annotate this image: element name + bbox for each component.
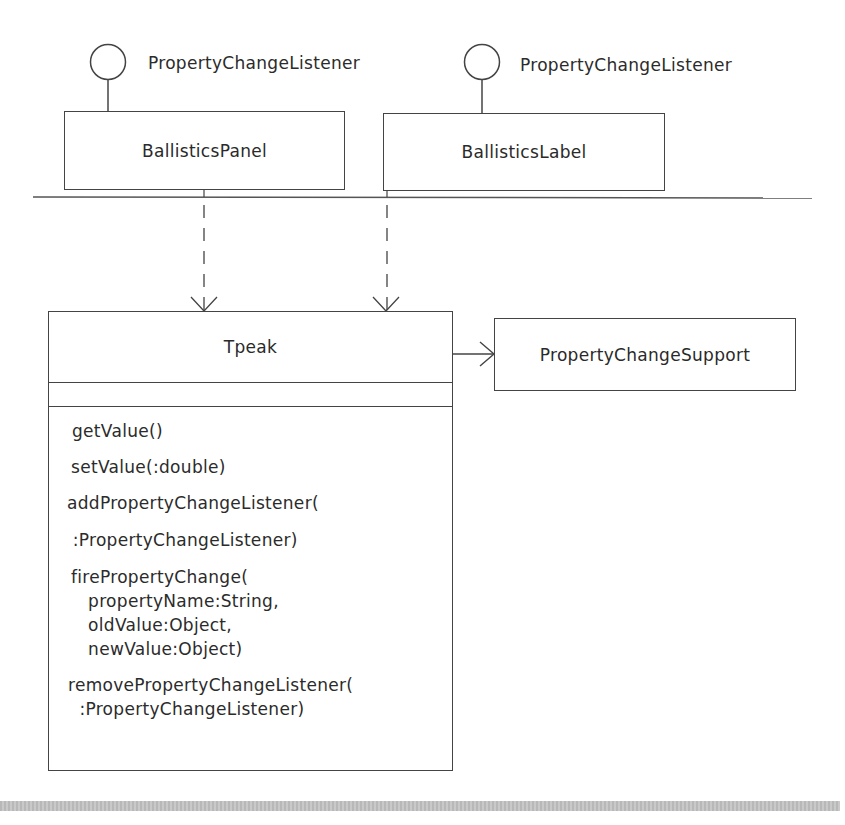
interface-label-left: PropertyChangeListener bbox=[148, 53, 360, 73]
footer-divider-bar bbox=[0, 801, 840, 811]
class-name: BallisticsLabel bbox=[461, 142, 586, 162]
operation-add-listener-param: :PropertyChangeListener) bbox=[67, 528, 298, 552]
class-box-ballistics-label[interactable]: BallisticsLabel bbox=[383, 113, 665, 191]
operation-remove-listener: removePropertyChangeListener( bbox=[68, 673, 353, 697]
class-box-property-change-support[interactable]: PropertyChangeSupport bbox=[494, 318, 796, 391]
operation-remove-listener-param: :PropertyChangeListener) bbox=[68, 697, 304, 721]
class-name: BallisticsPanel bbox=[142, 141, 267, 161]
class-box-tpeak[interactable]: Tpeak getValue() setValue(:double) addPr… bbox=[48, 311, 453, 771]
class-name-compartment: Tpeak bbox=[49, 312, 452, 383]
interface-label-right: PropertyChangeListener bbox=[520, 55, 732, 75]
attributes-compartment bbox=[49, 383, 452, 407]
operation-set-value: setValue(:double) bbox=[71, 455, 226, 479]
layer-separator-line bbox=[33, 197, 812, 198]
operation-add-listener: addPropertyChangeListener( bbox=[67, 491, 319, 515]
operation-fire-change-param-2: oldValue:Object, bbox=[71, 613, 232, 637]
interface-lollipop-left-icon bbox=[91, 45, 126, 80]
operation-get-value: getValue() bbox=[72, 419, 163, 443]
interface-lollipop-right-icon bbox=[465, 45, 500, 80]
class-box-ballistics-panel[interactable]: BallisticsPanel bbox=[64, 111, 345, 190]
operation-fire-change-param-3: newValue:Object) bbox=[71, 637, 242, 661]
class-name: Tpeak bbox=[224, 337, 277, 357]
operation-fire-change: firePropertyChange( bbox=[71, 565, 248, 589]
operation-fire-change-param-1: propertyName:String, bbox=[71, 589, 279, 613]
class-name: PropertyChangeSupport bbox=[540, 345, 751, 365]
